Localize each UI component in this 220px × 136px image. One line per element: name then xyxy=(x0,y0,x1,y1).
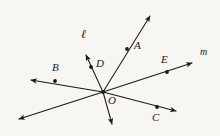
dot-O xyxy=(101,90,105,94)
point-label-D: D xyxy=(96,58,104,69)
line-label-l: ℓ xyxy=(81,28,86,40)
point-label-B: B xyxy=(52,62,59,73)
dot-C xyxy=(155,105,159,109)
point-label-O: O xyxy=(108,95,116,106)
line-label-m: m xyxy=(200,47,207,57)
dot-A xyxy=(125,47,129,51)
dot-D xyxy=(89,65,93,69)
geometry-figure: A B C D E O ℓ m xyxy=(0,0,220,136)
dot-B xyxy=(53,79,57,83)
figure-canvas xyxy=(0,0,220,136)
ray-OA xyxy=(103,16,150,92)
point-label-A: A xyxy=(134,40,141,51)
ray-OE xyxy=(103,63,192,92)
point-label-C: C xyxy=(152,112,159,123)
ray-O-lowerleft xyxy=(19,92,103,119)
ray-OB xyxy=(31,80,103,92)
point-label-E: E xyxy=(161,54,168,65)
dot-E xyxy=(165,70,169,74)
